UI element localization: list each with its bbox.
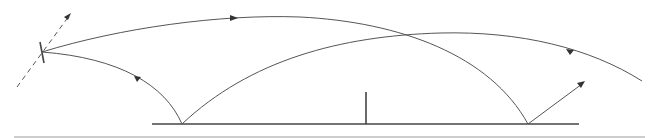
propagation-diagram: [0, 0, 658, 138]
reflected-ray: [528, 84, 582, 124]
lower-left-arc-path: [42, 52, 182, 124]
dashed-arrowhead-icon: [64, 13, 71, 20]
upper-arc-arrowhead-icon: [230, 15, 238, 21]
long-arc-path: [182, 33, 642, 124]
long-arc-arrowhead-icon: [566, 49, 574, 55]
